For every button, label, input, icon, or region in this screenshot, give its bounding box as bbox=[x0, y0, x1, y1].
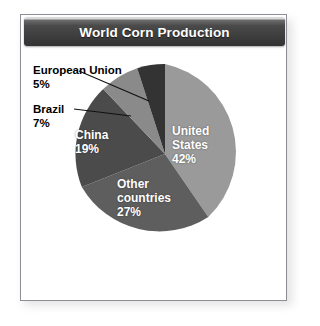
pie-label-other-countries-name-line1: Other bbox=[117, 177, 149, 191]
chart-panel: World Corn Production European Union 5% … bbox=[20, 14, 287, 301]
pie-chart-plot-area: European Union 5% Brazil 7% China 19% Ot… bbox=[21, 46, 286, 300]
pie-label-european-union: European Union 5% bbox=[33, 64, 122, 91]
pie-label-united-states-name-line2: States bbox=[172, 138, 208, 152]
pie-label-united-states-name-line1: United bbox=[172, 124, 209, 138]
pie-label-china: China 19% bbox=[75, 128, 108, 156]
pie-label-brazil-name: Brazil bbox=[33, 103, 64, 115]
pie-label-united-states-percent: 42% bbox=[172, 152, 196, 166]
page-title: World Corn Production bbox=[79, 25, 229, 40]
pie-label-european-union-name: European Union bbox=[33, 64, 122, 76]
pie-label-other-countries-name-line2: countries bbox=[117, 191, 171, 205]
chart-title-bar: World Corn Production bbox=[24, 17, 285, 46]
pie-label-european-union-percent: 5% bbox=[33, 78, 122, 92]
pie-label-brazil-percent: 7% bbox=[33, 117, 64, 131]
pie-label-china-name: China bbox=[75, 128, 108, 142]
pie-label-other-countries: Other countries 27% bbox=[117, 177, 171, 219]
pie-label-united-states: United States 42% bbox=[172, 124, 209, 166]
pie-label-other-countries-percent: 27% bbox=[117, 205, 141, 219]
pie-label-china-percent: 19% bbox=[75, 142, 99, 156]
pie-label-brazil: Brazil 7% bbox=[33, 103, 64, 130]
